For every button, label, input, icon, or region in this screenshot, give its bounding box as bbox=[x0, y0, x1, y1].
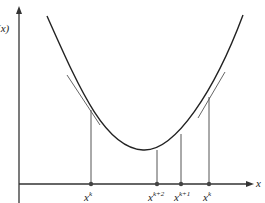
x-axis-arrow-icon bbox=[246, 181, 254, 187]
diagram-canvas bbox=[0, 0, 265, 203]
y-axis-label: f(x) bbox=[0, 22, 9, 34]
tick-label-xk-right: xk bbox=[203, 190, 211, 203]
point-xk2 bbox=[155, 182, 159, 186]
y-axis-arrow-icon bbox=[16, 6, 22, 14]
tangent-left bbox=[67, 75, 100, 125]
tick-label-xk2: xk+2 bbox=[148, 190, 164, 203]
tick-label-xk-left: xk bbox=[84, 190, 92, 203]
x-axis-label: x bbox=[256, 177, 261, 189]
tick-label-xk1: xk+1 bbox=[174, 190, 190, 203]
function-curve bbox=[47, 15, 243, 150]
point-xk1 bbox=[179, 182, 183, 186]
tangent-right bbox=[198, 72, 225, 118]
point-xk-left bbox=[89, 182, 93, 186]
point-xk-right bbox=[207, 182, 211, 186]
